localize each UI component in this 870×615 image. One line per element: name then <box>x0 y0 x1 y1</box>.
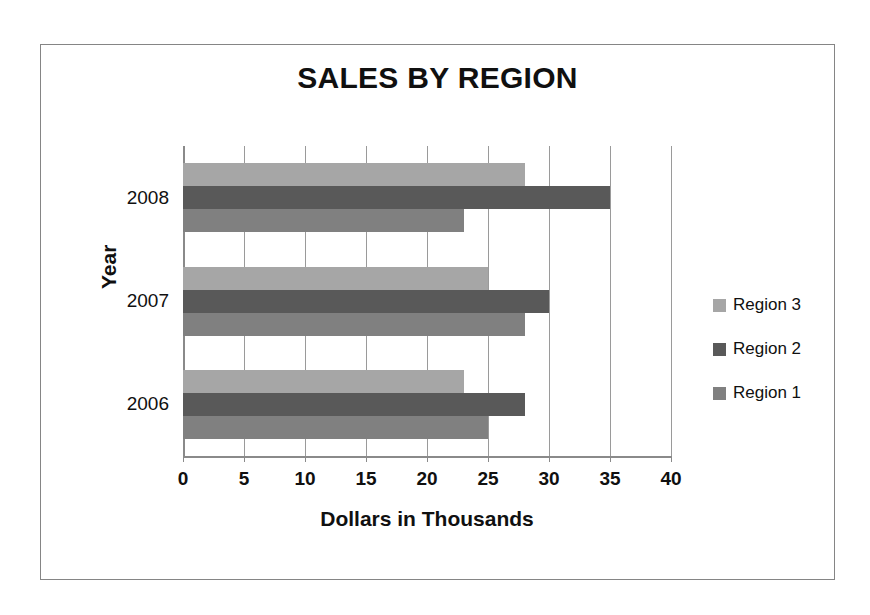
x-axis-tick-label: 15 <box>355 468 376 490</box>
chart-legend: Region 3Region 2Region 1 <box>713 283 829 415</box>
plot-inner <box>183 146 671 456</box>
bar-region-3-2007[interactable] <box>183 267 488 290</box>
bar-region-3-2008[interactable] <box>183 163 525 186</box>
gridline-x-40 <box>671 146 672 456</box>
y-axis-title: Year <box>97 245 121 289</box>
legend-item-region-2[interactable]: Region 2 <box>713 327 829 371</box>
gridline-x-35 <box>610 146 611 456</box>
bar-region-1-2008[interactable] <box>183 209 464 232</box>
x-axis-title: Dollars in Thousands <box>183 507 671 531</box>
y-axis-category-label: 2006 <box>127 393 169 415</box>
legend-swatch-icon <box>713 343 726 356</box>
plot-area: 0510152025303540200820072006 <box>183 146 671 456</box>
x-axis-line <box>183 456 671 458</box>
legend-label: Region 1 <box>733 383 801 403</box>
bar-region-1-2006[interactable] <box>183 416 488 439</box>
x-axis-tick-label: 25 <box>477 468 498 490</box>
x-axis-tick-label: 0 <box>178 468 189 490</box>
legend-label: Region 3 <box>733 295 801 315</box>
chart-frame: SALES BY REGION Year 0510152025303540200… <box>40 44 835 580</box>
legend-item-region-1[interactable]: Region 1 <box>713 371 829 415</box>
legend-swatch-icon <box>713 299 726 312</box>
x-axis-tick-label: 10 <box>294 468 315 490</box>
y-axis-category-label: 2008 <box>127 187 169 209</box>
x-axis-tick-label: 35 <box>599 468 620 490</box>
x-axis-tick-label: 20 <box>416 468 437 490</box>
chart-title: SALES BY REGION <box>41 61 834 95</box>
bar-region-2-2007[interactable] <box>183 290 549 313</box>
bar-region-2-2008[interactable] <box>183 186 610 209</box>
x-axis-tick-label: 40 <box>660 468 681 490</box>
bar-region-3-2006[interactable] <box>183 370 464 393</box>
bar-region-1-2007[interactable] <box>183 313 525 336</box>
y-axis-category-label: 2007 <box>127 290 169 312</box>
bar-region-2-2006[interactable] <box>183 393 525 416</box>
x-axis-tick-40 <box>671 456 672 462</box>
legend-label: Region 2 <box>733 339 801 359</box>
x-axis-tick-label: 5 <box>239 468 250 490</box>
legend-item-region-3[interactable]: Region 3 <box>713 283 829 327</box>
legend-swatch-icon <box>713 387 726 400</box>
x-axis-tick-label: 30 <box>538 468 559 490</box>
